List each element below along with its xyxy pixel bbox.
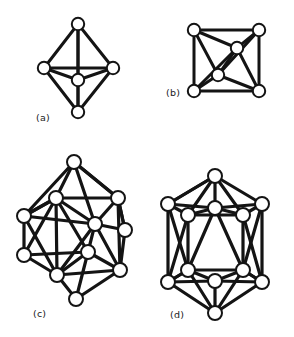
vertex-corner-bottom-left — [188, 85, 200, 97]
vertex-inner-lower — [212, 69, 224, 81]
vertex-lower-left-outer — [161, 275, 175, 289]
edge-corner-top-left--inner-lower — [194, 30, 218, 75]
vertex-mid-far-left — [17, 209, 31, 223]
edge-lower-right-outer--apex-bottom — [215, 282, 262, 313]
vertex-corner-top-right — [253, 24, 265, 36]
polyhedra-figure-canvas: (a)(b)(c)(d) — [0, 0, 294, 337]
edge-low-left--low-right — [57, 270, 120, 275]
panel-d: (d) — [161, 169, 269, 320]
vertex-upper-right — [111, 191, 125, 205]
vertex-apex-bottom — [208, 306, 222, 320]
vertex-apex-bottom — [69, 292, 83, 306]
edge-apex-top--equator-left — [44, 24, 78, 68]
vertex-lower-right-outer — [255, 275, 269, 289]
vertex-upper-left — [49, 191, 63, 205]
vertex-corner-bottom-right — [253, 85, 265, 97]
panel-c-edges — [24, 162, 125, 299]
edge-upper-left--low-mid-center — [56, 198, 88, 252]
vertex-low-right — [113, 263, 127, 277]
panel-label-c: (c) — [33, 308, 46, 319]
panel-a-edges — [44, 24, 113, 112]
vertex-corner-top-left — [188, 24, 200, 36]
vertex-mid-center — [88, 217, 102, 231]
vertex-inner-upper — [231, 42, 243, 54]
figure-root: (a)(b)(c)(d) — [0, 0, 294, 337]
vertex-upper-inner — [208, 201, 222, 215]
vertex-upper-left-outer — [161, 197, 175, 211]
vertex-low-left — [50, 268, 64, 282]
vertex-equator-left — [38, 62, 50, 74]
vertex-lower-right-inner — [236, 263, 250, 277]
edge-apex-top--upper-right-outer — [215, 176, 262, 204]
panel-b-edges — [194, 30, 259, 91]
vertex-equator-front — [72, 74, 84, 86]
vertex-equator-right — [107, 62, 119, 74]
edge-upper-left--low-left — [56, 198, 57, 275]
vertex-apex-bottom — [72, 106, 84, 118]
panel-b: (b) — [166, 24, 265, 98]
edge-upper-left-outer--apex-top — [168, 176, 215, 204]
panel-a: (a) — [36, 18, 119, 123]
edge-low-mid-center--low-far-left — [24, 252, 88, 255]
panel-label-b: (b) — [166, 87, 180, 98]
vertex-upper-left-inner — [181, 208, 195, 222]
vertex-low-far-left — [17, 248, 31, 262]
vertex-low-mid-center — [81, 245, 95, 259]
vertex-apex-top — [208, 169, 222, 183]
panel-d-edges — [168, 176, 262, 313]
vertex-upper-right-inner — [236, 208, 250, 222]
panel-c: (c) — [17, 155, 132, 319]
vertex-mid-right-edge — [118, 223, 132, 237]
vertex-upper-right-outer — [255, 197, 269, 211]
vertex-lower-left-inner — [181, 263, 195, 277]
vertex-lower-inner — [208, 274, 222, 288]
vertex-apex-top — [67, 155, 81, 169]
panel-label-a: (a) — [36, 112, 50, 123]
vertex-apex-top — [72, 18, 84, 30]
edge-apex-top--equator-right — [78, 24, 113, 68]
panel-label-d: (d) — [170, 309, 184, 320]
